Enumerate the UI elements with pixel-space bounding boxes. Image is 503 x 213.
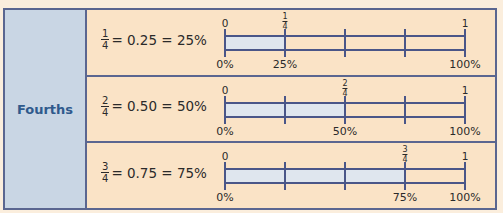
- equation-text: = 0.25 = 25%: [111, 32, 207, 48]
- denominator: 4: [102, 107, 108, 118]
- denominator: 4: [102, 40, 108, 51]
- start-percent: 0%: [216, 125, 233, 138]
- equation: 3 4 = 0.75 = 75%: [101, 161, 207, 184]
- number-line: 0 2 4 1 0% 50% 100%: [225, 77, 465, 143]
- denominator: 4: [102, 173, 108, 184]
- equation-text: = 0.75 = 75%: [111, 165, 207, 181]
- end-percent: 100%: [449, 191, 480, 204]
- start-label: 0: [222, 17, 229, 29]
- start-label: 0: [222, 84, 229, 96]
- start-percent: 0%: [216, 191, 233, 204]
- end-label: 1: [462, 150, 469, 162]
- shaded-region: [225, 170, 405, 182]
- tick: [224, 29, 226, 57]
- numerator: 3: [101, 161, 109, 173]
- fraction-row: 1 4 = 0.25 = 25% 0 1 4 1: [87, 10, 495, 77]
- equation: 2 4 = 0.50 = 50%: [101, 95, 207, 118]
- tick: [464, 96, 466, 124]
- marker-percent: 75%: [393, 191, 417, 204]
- fractions-table: Fourths 1 4 = 0.25 = 25% 0: [3, 8, 497, 210]
- category-label: Fourths: [17, 102, 73, 117]
- marker-denominator: 4: [342, 89, 347, 98]
- fraction: 2 4: [101, 95, 109, 118]
- category-cell: Fourths: [5, 10, 87, 208]
- numerator: 2: [101, 95, 109, 107]
- marker-numerator: 2: [342, 79, 347, 89]
- marker-percent: 50%: [333, 125, 357, 138]
- end-percent: 100%: [449, 125, 480, 138]
- tick: [344, 29, 346, 57]
- marker-numerator: 1: [282, 12, 287, 22]
- tick: [224, 162, 226, 190]
- tick: [344, 162, 346, 190]
- marker-denominator: 4: [402, 155, 407, 164]
- tick: [404, 162, 406, 190]
- end-label: 1: [462, 84, 469, 96]
- fraction: 3 4: [101, 161, 109, 184]
- tick: [464, 162, 466, 190]
- tick: [404, 29, 406, 57]
- equation-text: = 0.50 = 50%: [111, 98, 207, 114]
- end-label: 1: [462, 17, 469, 29]
- tick: [464, 29, 466, 57]
- number-line: 0 1 4 1 0% 25% 100%: [225, 10, 465, 76]
- marker-fraction: 1 4: [282, 12, 287, 31]
- tick: [284, 162, 286, 190]
- marker-numerator: 3: [402, 145, 407, 155]
- fraction-row: 3 4 = 0.75 = 75% 0 3 4 1: [87, 143, 495, 208]
- start-label: 0: [222, 150, 229, 162]
- marker-fraction: 2 4: [342, 79, 347, 98]
- equation: 1 4 = 0.25 = 25%: [101, 28, 207, 51]
- marker-denominator: 4: [282, 22, 287, 31]
- marker-percent: 25%: [273, 58, 297, 71]
- numerator: 1: [101, 28, 109, 40]
- fraction-row: 2 4 = 0.50 = 50% 0 2 4 1: [87, 77, 495, 144]
- tick: [284, 96, 286, 124]
- start-percent: 0%: [216, 58, 233, 71]
- tick: [284, 29, 286, 57]
- shaded-region: [225, 37, 285, 49]
- number-line: 0 3 4 1 0% 75% 100%: [225, 143, 465, 209]
- tick: [404, 96, 406, 124]
- end-percent: 100%: [449, 58, 480, 71]
- fraction: 1 4: [101, 28, 109, 51]
- rows-container: 1 4 = 0.25 = 25% 0 1 4 1: [87, 10, 495, 208]
- tick: [224, 96, 226, 124]
- tick: [344, 96, 346, 124]
- marker-fraction: 3 4: [402, 145, 407, 164]
